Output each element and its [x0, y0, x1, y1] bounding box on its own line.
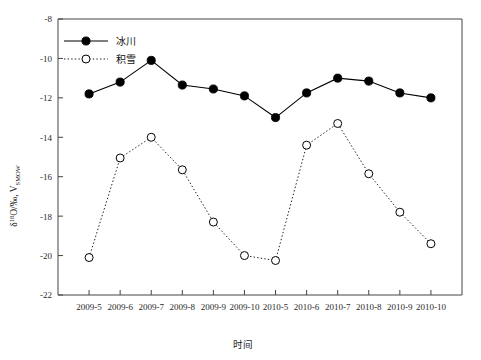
y-tick-label: -18 [40, 212, 52, 222]
data-point-marker [365, 77, 373, 85]
series-line [89, 60, 431, 117]
x-axis-title: 时间 [233, 339, 253, 350]
x-tick-label: 2009-5 [76, 302, 102, 312]
data-point-marker [334, 119, 342, 127]
series-line [89, 123, 431, 260]
x-tick-label: 2010-5 [263, 302, 289, 312]
legend-marker-filled-circle [82, 37, 90, 45]
legend-label-glacier: 冰川 [116, 35, 136, 47]
data-point-marker [178, 166, 186, 174]
x-tick-label: 2009-9 [201, 302, 227, 312]
x-tick-label: 2009-6 [107, 302, 133, 312]
y-tick-label: -22 [40, 290, 52, 300]
x-tick-label: 2010-7 [325, 302, 351, 312]
legend-marker-open-circle [82, 55, 90, 63]
data-point-marker [116, 154, 124, 162]
data-point-marker [272, 257, 280, 265]
x-axis: 2009-52009-62009-72009-82009-92009-10201… [76, 290, 446, 312]
data-point-marker [85, 90, 93, 98]
data-point-marker [209, 218, 217, 226]
y-tick-label: -14 [40, 133, 52, 143]
data-point-marker [334, 74, 342, 82]
x-tick-label: 2009-7 [138, 302, 164, 312]
data-point-marker [396, 89, 404, 97]
data-point-marker [147, 56, 155, 64]
series-snow [85, 119, 435, 264]
x-tick-label: 2010-8 [356, 302, 382, 312]
data-point-marker [427, 94, 435, 102]
y-tick-label: -8 [45, 14, 53, 24]
y-tick-label: -20 [40, 251, 52, 261]
data-point-marker [303, 141, 311, 149]
x-tick-label: 2010-10 [416, 302, 446, 312]
y-tick-label: -16 [40, 172, 52, 182]
data-point-marker [240, 252, 248, 260]
y-axis: -8-10-12-14-16-18-20-22 [40, 14, 63, 300]
data-point-marker [147, 133, 155, 141]
data-point-marker [427, 240, 435, 248]
x-tick-label: 2010-9 [387, 302, 413, 312]
y-axis-title: δ18O/‰, VSMOW [8, 164, 21, 227]
legend-label-snow: 积雪 [116, 54, 136, 65]
data-point-marker [365, 170, 373, 178]
series-glacier [85, 56, 435, 121]
x-tick-label: 2009-8 [170, 302, 196, 312]
chart-legend: 冰川积雪 [64, 35, 136, 65]
data-point-marker [209, 85, 217, 93]
chart-figure: -8-10-12-14-16-18-20-22 2009-52009-62009… [0, 0, 481, 360]
delta-o18-line-chart: -8-10-12-14-16-18-20-22 2009-52009-62009… [0, 0, 481, 360]
data-point-marker [240, 92, 248, 100]
data-point-marker [396, 208, 404, 216]
data-point-marker [85, 254, 93, 262]
data-point-marker [116, 78, 124, 86]
y-tick-label: -10 [40, 54, 52, 64]
y-tick-label: -12 [40, 93, 52, 103]
data-point-marker [178, 81, 186, 89]
x-tick-label: 2009-10 [229, 302, 259, 312]
data-point-marker [271, 113, 279, 121]
x-tick-label: 2010-6 [294, 302, 320, 312]
data-point-marker [303, 89, 311, 97]
data-series-group [85, 56, 435, 264]
